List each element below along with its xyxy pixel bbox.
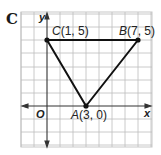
svg-text:B(7, 5): B(7, 5)	[119, 24, 155, 38]
coordinate-plane: y x O C(1, 5) B(7, 5) A(3, 0)	[0, 0, 161, 155]
point-a-label: A(3, 0)	[70, 108, 107, 122]
origin-label: O	[36, 108, 45, 120]
y-axis-label: y	[38, 11, 46, 23]
point-c	[44, 37, 49, 42]
point-b-label: B(7, 5)	[119, 24, 155, 38]
svg-text:A(3, 0): A(3, 0)	[70, 108, 107, 122]
x-axis-label: x	[143, 107, 151, 119]
svg-text:C(1, 5): C(1, 5)	[52, 24, 89, 38]
point-c-label: C(1, 5)	[52, 24, 89, 38]
point-b	[135, 37, 140, 42]
